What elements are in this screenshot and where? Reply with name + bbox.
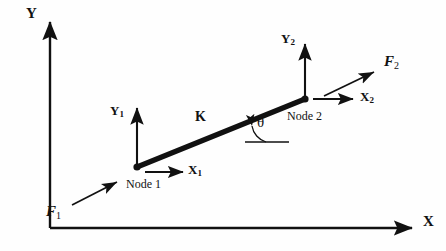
f1-label-text: F <box>46 203 56 219</box>
y1-label-subscript: 1 <box>119 109 124 119</box>
f1-label-subscript: 1 <box>56 210 61 221</box>
y1-label: Y1 <box>110 104 124 117</box>
x2-label-text: X <box>360 89 369 104</box>
y2-label-subscript: 2 <box>290 37 295 47</box>
x2-label-subscript: 2 <box>369 95 374 105</box>
f2-label-subscript: 2 <box>394 60 399 71</box>
x1-label-subscript: 1 <box>197 168 202 178</box>
truss-element-diagram <box>0 0 446 251</box>
node1-label: Node 1 <box>126 178 161 190</box>
x-axis-label: X <box>423 214 434 229</box>
y1-label-text: Y <box>110 103 119 118</box>
f2-label: F2 <box>384 54 399 69</box>
y2-label-text: Y <box>281 31 290 46</box>
y-axis-label: Y <box>26 6 37 21</box>
stiffness-label: K <box>195 110 206 124</box>
theta-label: θ <box>257 115 264 130</box>
f1-force-arrow <box>72 182 117 205</box>
x1-label: X1 <box>188 163 202 176</box>
f2-label-text: F <box>384 53 394 69</box>
f1-label: F1 <box>46 204 61 219</box>
x2-label: X2 <box>360 90 374 103</box>
node2-label: Node 2 <box>287 110 322 122</box>
y2-label: Y2 <box>281 32 295 45</box>
x1-label-text: X <box>188 162 197 177</box>
truss-element-beam <box>137 99 305 167</box>
diagram-canvas: Y X Y1 X1 Y2 X2 F1 F2 K θ Node 1 Node 2 <box>0 0 446 251</box>
